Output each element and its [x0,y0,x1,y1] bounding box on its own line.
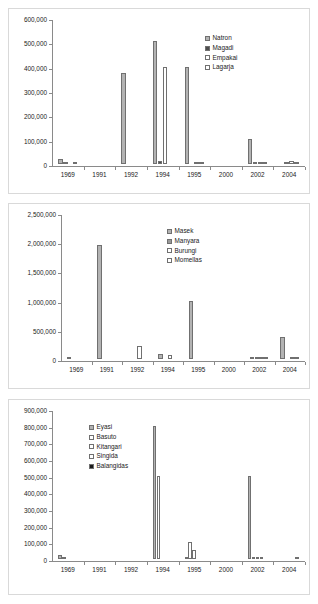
y-tick-mark [49,411,52,412]
y-tick-label: 700,000 [9,441,47,447]
y-tick-label: 100,000 [9,541,47,547]
legend-swatch-eyasi [89,425,94,430]
legend-swatch-manyara [167,239,172,244]
x-tick-mark [273,562,274,565]
x-tick-mark [305,562,306,565]
bar-magadi-2002 [253,162,258,164]
y-tick-mark [49,444,52,445]
chart-legend: MasekManyaraBurungiMomellas [167,228,202,267]
y-tick-mark [49,93,52,94]
x-tick-mark [214,362,215,365]
chart-legend: NatronMagadiEmpakaiLagarja [205,35,237,74]
y-tick-label: 900,000 [9,408,47,414]
legend-swatch-momellas [167,258,172,263]
y-tick-mark [49,544,52,545]
plot-area-2: 0500,0001,000,0001,500,0002,000,0002,500… [9,204,309,388]
y-tick-mark [58,215,61,216]
y-tick-label: 500,000 [9,329,56,335]
x-tick-label: 1994 [161,367,175,373]
x-tick-label: 2002 [252,367,266,373]
x-tick-mark [210,562,211,565]
y-tick-mark [49,117,52,118]
x-tick-label: 1995 [187,172,201,178]
x-tick-label: 1969 [61,172,75,178]
bar-empakai-2004 [289,161,294,164]
bar-basuto-1969 [62,557,66,559]
x-tick-label: 1991 [92,172,106,178]
y-tick-label: 500,000 [9,41,47,47]
x-tick-label: 1992 [124,567,138,573]
x-tick-mark [84,562,85,565]
x-tick-mark [242,562,243,565]
bar-momellas-2002 [264,357,268,359]
x-tick-label: 1991 [100,367,114,373]
legend-swatch-natron [205,36,210,41]
y-tick-label: 200,000 [9,524,47,530]
bar-eyasi-2002 [248,476,252,559]
y-tick-mark [49,478,52,479]
bar-burungi-1994 [168,355,172,359]
x-tick-label: 1969 [69,367,83,373]
x-tick-mark [242,167,243,170]
x-tick-mark [84,167,85,170]
x-tick-label: 2004 [282,172,296,178]
y-tick-mark [58,361,61,362]
chart-legend: EyasiBasutoKitangariSingidaBalangidas [89,424,128,473]
legend-swatch-masek [167,229,172,234]
y-tick-label: 0 [9,558,47,564]
legend-swatch-empakai [205,55,210,60]
legend-swatch-kitangari [89,444,94,449]
y-tick-mark [49,528,52,529]
bar-masek-2004 [280,337,284,359]
y-tick-label: 600,000 [9,458,47,464]
chart-panel-1: 0100,000200,000300,000400,000500,000600,… [8,8,310,194]
y-tick-mark [49,142,52,143]
legend-item: Singida [89,453,128,459]
x-tick-mark [210,167,211,170]
legend-item: Burungi [167,248,202,254]
bar-lagarja-2004 [294,162,299,164]
legend-item: Balangidas [89,463,128,469]
y-tick-mark [58,273,61,274]
x-tick-label: 1995 [187,567,201,573]
legend-item: Manyara [167,238,202,244]
y-tick-mark [49,511,52,512]
y-tick-label: 2,000,000 [9,241,56,247]
y-tick-label: 1,500,000 [9,270,56,276]
legend-item: Kitangari [89,444,128,450]
x-tick-label: 2000 [219,567,233,573]
y-tick-mark [58,303,61,304]
legend-label: Empakai [213,55,238,61]
legend-label: Balangidas [97,463,129,469]
x-tick-mark [115,562,116,565]
y-tick-mark [49,44,52,45]
bar-masek-1991 [97,245,101,359]
legend-label: Manyara [175,238,200,244]
legend-label: Natron [213,35,232,41]
bar-magadi-1994 [158,161,163,164]
bar-burungi-1992 [137,346,141,359]
chart-panel-3: 0100,000200,000300,000400,000500,000600,… [8,399,310,595]
y-tick-mark [58,332,61,333]
y-tick-mark [49,20,52,21]
y-tick-label: 2,500,000 [9,212,56,218]
legend-label: Momellas [175,257,202,263]
bar-natron-2002 [248,139,253,164]
y-tick-label: 200,000 [9,114,47,120]
x-tick-label: 1995 [191,367,205,373]
y-tick-mark [58,244,61,245]
x-tick-label: 2000 [219,172,233,178]
bar-natron-1994 [153,41,158,164]
bar-basuto-1994 [157,476,161,559]
x-tick-mark [244,362,245,365]
x-tick-label: 2000 [222,367,236,373]
y-tick-mark [49,428,52,429]
legend-item: Lagarja [205,64,237,70]
bar-natron-1969 [58,159,63,164]
x-tick-mark [179,167,180,170]
x-tick-label: 1994 [156,172,170,178]
x-tick-mark [275,362,276,365]
y-axis-line [61,215,62,362]
figure-page: 0100,000200,000300,000400,000500,000600,… [0,0,318,604]
legend-item: Masek [167,228,202,234]
